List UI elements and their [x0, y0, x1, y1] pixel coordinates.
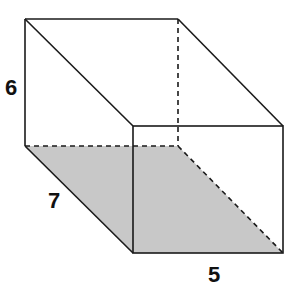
shaded-base-face: [25, 146, 283, 253]
width-label: 5: [208, 262, 220, 287]
prism-diagram: 6 7 5: [0, 0, 302, 293]
height-label: 6: [5, 75, 17, 100]
depth-label: 7: [48, 188, 60, 213]
right-top-depth-edge: [178, 19, 283, 126]
left-top-depth-edge: [25, 19, 133, 126]
